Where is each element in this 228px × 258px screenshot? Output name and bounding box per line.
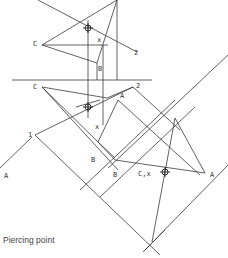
label-Cx-aux: C,x bbox=[138, 171, 151, 178]
label-2-front: 2 bbox=[136, 83, 140, 90]
proj-2 bbox=[133, 87, 180, 130]
label-B-aux: B bbox=[113, 172, 117, 179]
label-1-front: 1 bbox=[28, 132, 32, 139]
edge-2A-aux bbox=[175, 118, 205, 173]
aux-line-4 bbox=[108, 55, 228, 168]
aux-line-1 bbox=[80, 100, 175, 190]
caption-piercing-point: Piercing point bbox=[3, 235, 55, 245]
label-A-front: A bbox=[120, 93, 124, 100]
label-B-top: B bbox=[98, 66, 102, 73]
label-x-top: x bbox=[97, 37, 101, 44]
aux-line-2 bbox=[100, 107, 195, 197]
diagram-lines bbox=[0, 0, 228, 258]
label-2-top: 2 bbox=[134, 50, 138, 57]
label-x-front: x bbox=[95, 124, 99, 131]
label-B-front: B bbox=[91, 157, 95, 164]
label-A-left: A bbox=[4, 173, 8, 180]
edge-line-2-top bbox=[38, 0, 137, 52]
label-C-front: C bbox=[33, 84, 37, 91]
edge-CA-top bbox=[42, 0, 117, 45]
ref-line-left bbox=[0, 137, 32, 168]
proj-C-front bbox=[42, 87, 118, 170]
piercing-point-marker-aux bbox=[160, 167, 170, 177]
edge-AB-front bbox=[98, 100, 118, 142]
label-C-top: C bbox=[33, 41, 37, 48]
edge-BA-top bbox=[97, 0, 117, 63]
label-A-right: A bbox=[210, 172, 214, 179]
edge-CB-top bbox=[42, 45, 97, 63]
piercing-point-diagram: C x B 2 C A 2 x B 1 A B C,x A Piercing p… bbox=[0, 0, 228, 258]
